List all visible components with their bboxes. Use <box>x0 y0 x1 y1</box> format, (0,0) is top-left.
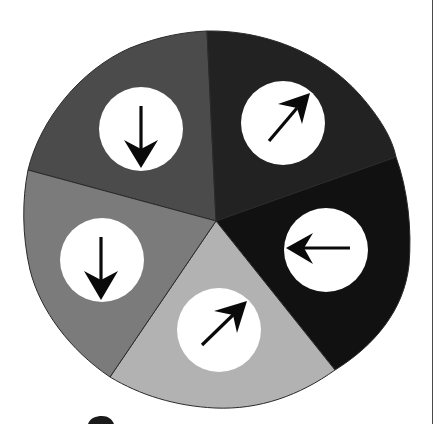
pie-diagram <box>0 0 443 424</box>
arrow-badge-upper-right <box>241 81 325 165</box>
arrow-badge-left <box>60 218 144 302</box>
arrow-badge-bottom <box>177 288 261 372</box>
right-border-rule <box>432 0 433 424</box>
arrow-badge-upper-left <box>99 87 183 171</box>
pie-diagram-svg <box>0 0 443 424</box>
arrow-badge-right <box>284 208 368 292</box>
partial-shape-bottom <box>88 416 114 424</box>
